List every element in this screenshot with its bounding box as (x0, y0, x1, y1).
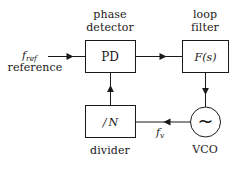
vco-caption: VCO (192, 144, 218, 157)
divider-caption: divider (90, 145, 130, 158)
fv-subscript: v (160, 131, 164, 140)
signal-label-fv: fv (156, 126, 164, 140)
arrow-right-icon-fref (67, 53, 74, 60)
loop-filter-caption: loop filter (191, 9, 219, 34)
loop-filter-label-paren-close: ) (212, 51, 216, 64)
loop-filter-label-f: F (195, 51, 203, 64)
loop-filter-caption-line2: filter (191, 22, 219, 35)
divider-label-n: N (109, 116, 119, 129)
arrow-down-icon-vco-in (202, 88, 209, 95)
arrow-left-icon-fv (164, 119, 171, 126)
sine-wave-icon: ~ (198, 112, 214, 131)
phase-detector-caption-line1: phase (86, 9, 134, 22)
reference-caption: reference (8, 62, 63, 75)
phase-detector-box-label: PD (101, 50, 119, 64)
pll-block-diagram: phase detector loop filter PD F(s) /N di… (0, 0, 244, 171)
divider-box-label: /N (103, 115, 118, 129)
loop-filter-caption-line1: loop (191, 9, 219, 22)
loop-filter-box-label: F(s) (195, 50, 217, 64)
arrow-right-icon-pd-out (160, 53, 167, 60)
phase-detector-caption-line2: detector (86, 22, 134, 35)
phase-detector-caption: phase detector (86, 9, 134, 34)
arrow-up-icon-pd-in (107, 85, 114, 92)
divider-label-slash: / (103, 116, 107, 129)
